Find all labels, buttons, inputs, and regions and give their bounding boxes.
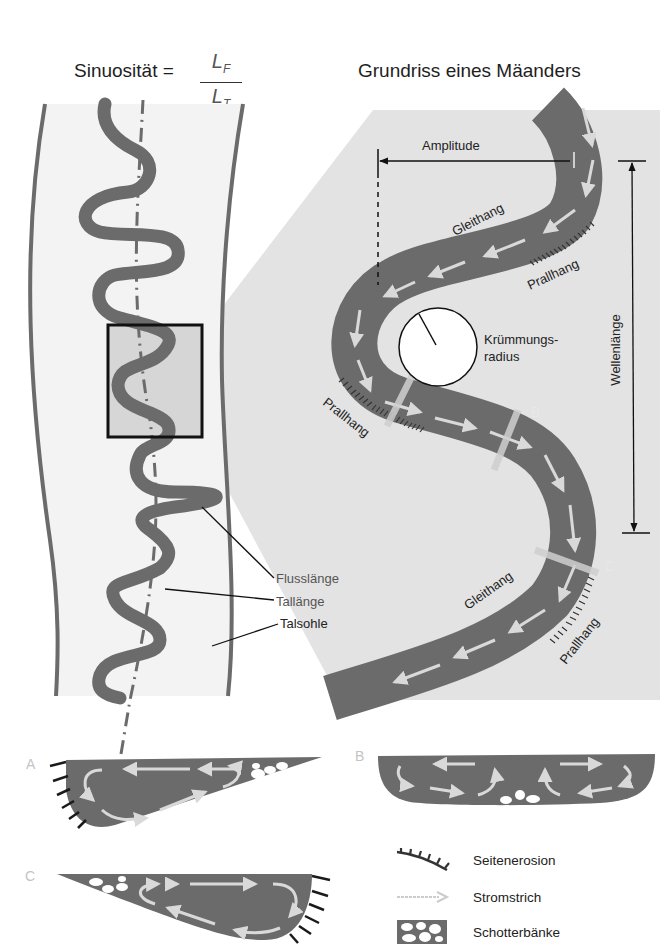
cross-section-c (57, 874, 330, 943)
cross-section-a (50, 757, 322, 828)
gravel-bar-icon (395, 920, 451, 944)
meander-diagram: Flusslänge Tallänge Talsohle A B (0, 0, 664, 951)
curvature-radius-label-line2: radius (484, 349, 520, 364)
section-c-label: C (605, 558, 615, 574)
gravel-bars-label: Schotterbänke (473, 925, 560, 940)
cross-section-a-letter: A (26, 756, 35, 772)
cross-section-b (378, 754, 655, 805)
cross-section-c-letter: C (25, 868, 35, 884)
legend-item-gravel-bars: Schotterbänke (395, 920, 560, 944)
amplitude-label: Amplitude (422, 138, 480, 153)
thalweg-label: Stromstrich (473, 890, 541, 905)
legend-item-thalweg: Stromstrich (395, 885, 541, 909)
lateral-erosion-icon (395, 848, 451, 872)
wavelength-label: Wellenlänge (608, 314, 623, 385)
lateral-erosion-label: Seitenerosion (473, 853, 556, 868)
legend-item-lateral-erosion: Seitenerosion (395, 848, 556, 872)
cross-section-b-letter: B (355, 748, 364, 764)
section-b-label: B (531, 404, 540, 420)
curvature-radius-label-line1: Krümmungs- (484, 332, 558, 347)
valley-floor-label: Talsohle (280, 616, 328, 631)
river-length-label: Flusslänge (276, 571, 339, 586)
thalweg-arrow-icon (395, 885, 451, 909)
curvature-radius-circle (399, 308, 477, 386)
valley-length-label: Tallänge (276, 594, 324, 609)
